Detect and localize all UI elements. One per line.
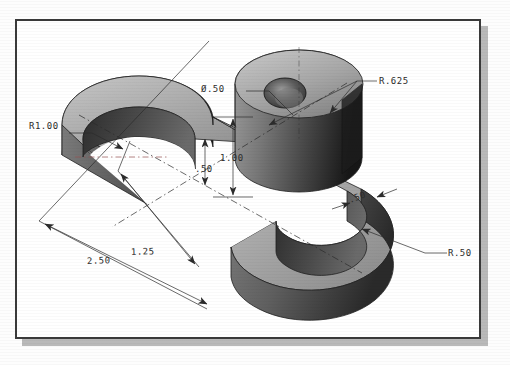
dim-label-dia-50: Ø.50 bbox=[201, 84, 225, 94]
witness-2-50-lower bbox=[39, 221, 207, 309]
isometric-solid-model: R1.00 Ø.50 R.625 1.00 .50 .50 R.50 2.50 … bbox=[17, 21, 479, 337]
dim-label-r1-00: R1.00 bbox=[29, 121, 59, 131]
dim-label-2-50: 2.50 bbox=[87, 255, 111, 266]
dim-label-50-vertical: .50 bbox=[195, 164, 213, 174]
drawing-canvas: R1.00 Ø.50 R.625 1.00 .50 .50 R.50 2.50 … bbox=[0, 0, 510, 365]
boss-right-flat bbox=[342, 84, 362, 174]
solid-body bbox=[62, 50, 393, 320]
dim-label-r-50: R.50 bbox=[448, 248, 472, 258]
dim-label-1-25: 1.25 bbox=[131, 246, 155, 257]
drawing-sheet-frame: R1.00 Ø.50 R.625 1.00 .50 .50 R.50 2.50 … bbox=[15, 19, 481, 339]
dim-label-1-00: 1.00 bbox=[220, 153, 244, 163]
dim-label-r-625: R.625 bbox=[379, 76, 409, 86]
dim-arm-50-right bbox=[377, 189, 397, 197]
dim-2-50-line bbox=[45, 224, 207, 304]
